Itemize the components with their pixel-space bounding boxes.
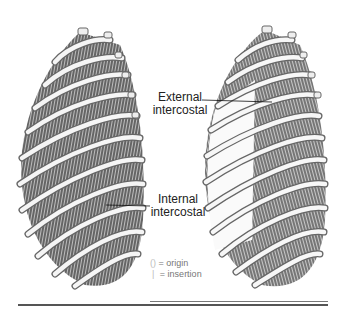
divider-thick <box>18 304 328 306</box>
anatomy-figure: External intercostal Internal intercosta… <box>0 0 343 311</box>
external-intercostal-label: External intercostal <box>150 91 210 117</box>
divider-thin <box>150 301 328 302</box>
origin-symbol-icon: () <box>150 258 156 268</box>
legend-origin: () = origin <box>150 258 202 269</box>
insertion-symbol-icon: | <box>150 269 157 279</box>
legend: () = origin | = insertion <box>150 258 202 280</box>
legend-insertion: | = insertion <box>150 269 202 280</box>
internal-intercostal-label: Internal intercostal <box>148 193 208 219</box>
